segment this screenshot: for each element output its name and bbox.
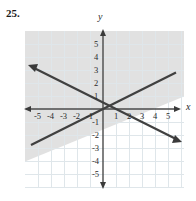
y-tick-label: 1: [94, 91, 98, 101]
y-tick-label: 2: [94, 78, 98, 88]
x-tick-label: 2: [127, 111, 131, 121]
x-tick-label: -3: [60, 111, 67, 121]
y-tick-label: 5: [94, 39, 98, 49]
y-tick-label: -4: [92, 156, 100, 166]
y-tick-label: -3: [92, 143, 99, 153]
x-tick-label: 1: [114, 111, 118, 121]
y-tick-label: -1: [92, 117, 99, 127]
x-tick-label: -2: [73, 111, 80, 121]
x-tick-label: 4: [153, 111, 158, 121]
x-axis-label: x: [186, 101, 190, 112]
y-tick-label: -2: [92, 130, 99, 140]
coordinate-plane-figure: -5 -4 -3 -2 -1 1 2 3 4 5 5 4 3 2 1 -1 -2…: [0, 0, 196, 201]
y-tick-label: 3: [94, 65, 98, 75]
y-axis-label: y: [98, 11, 102, 22]
x-tick-label: 3: [140, 111, 144, 121]
x-tick-label: -5: [34, 111, 41, 121]
x-tick-label: 5: [166, 111, 170, 121]
y-tick-label: -5: [92, 169, 99, 179]
x-tick-label: -4: [47, 111, 55, 121]
